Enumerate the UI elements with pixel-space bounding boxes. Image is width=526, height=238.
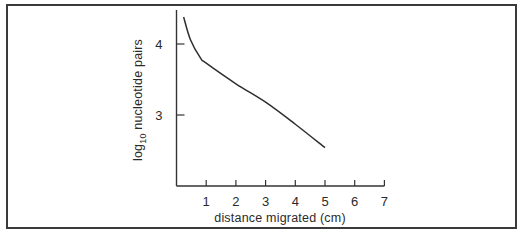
- x-tick-label: 3: [262, 194, 269, 209]
- y-tick-label: 4: [155, 37, 162, 52]
- x-axis-title: distance migrated (cm): [214, 211, 346, 225]
- y-axis-title: log10 nucleotide pairs: [131, 39, 148, 161]
- x-tick-label: 5: [321, 194, 328, 209]
- x-tick-label: 2: [232, 194, 239, 209]
- x-tick-label: 6: [351, 194, 358, 209]
- x-tick-label: 7: [381, 194, 388, 209]
- x-tick-label: 4: [292, 194, 299, 209]
- line-chart: 123456734distance migrated (cm)log10 nuc…: [0, 0, 526, 238]
- x-tick-label: 1: [203, 194, 210, 209]
- data-curve: [184, 17, 325, 148]
- y-tick-label: 3: [155, 108, 162, 123]
